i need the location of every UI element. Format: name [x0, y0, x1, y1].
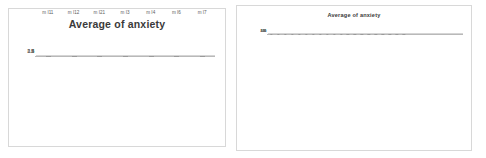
x-axis-label-cell: Category 27	[449, 0, 456, 18]
x-axis-label-cell: Category 14	[358, 0, 365, 18]
x-axis-label-cell: Category 22	[414, 0, 421, 18]
x-axis-tick-label: m I12	[61, 10, 87, 24]
x-axis-label-cell: Category 11	[337, 0, 344, 18]
x-axis-label-cell: Category 21	[407, 0, 414, 18]
x-axis-label-cell: Category 5	[295, 0, 302, 18]
right-plot-area: 0.000.501.001.502.002.503.003.504.00	[267, 34, 463, 35]
x-axis-label-cell: Category 13	[351, 0, 358, 18]
left-chart-panel: Average of anxiety 00.511.522.533.54 m I…	[8, 8, 226, 147]
x-axis-label-cell: Category 24	[428, 0, 435, 18]
x-axis-label-cell: Category 7	[309, 0, 316, 18]
left-plot-area: 00.511.522.533.54	[35, 56, 215, 57]
x-axis-tick-label: m I7	[189, 10, 215, 24]
x-axis-label-cell: Category 20	[400, 0, 407, 18]
x-axis-label-cell: Category 2	[274, 0, 281, 18]
x-axis-tick-label: m I3	[112, 10, 138, 24]
left-x-axis-labels: m I11m I12m I21m I3m I4m I6m I7	[35, 10, 215, 24]
x-axis-label-cell: Category 9	[323, 0, 330, 18]
x-axis-label-cell: Category 4	[288, 0, 295, 18]
x-axis-label-cell: Category 1	[267, 0, 274, 18]
y-axis-tick-label: 4.00	[261, 30, 268, 33]
x-axis-tick-label: m I21	[86, 10, 112, 24]
figure-container: Average of anxiety 00.511.522.533.54 m I…	[0, 0, 486, 158]
x-axis-label-cell: Category 17	[379, 0, 386, 18]
right-chart-panel: Average of anxiety 0.000.501.001.502.002…	[236, 5, 472, 151]
x-axis-label-cell: Category 8	[316, 0, 323, 18]
x-axis-label-cell: Category 28	[456, 0, 463, 18]
right-x-axis-labels: Category 1Category 2Category 3Category 4…	[267, 0, 463, 18]
x-axis-label-cell: Category 12	[344, 0, 351, 18]
x-axis-label-cell: Category 23	[421, 0, 428, 18]
gridline	[36, 55, 215, 56]
x-axis-label-cell: Category 25	[435, 0, 442, 18]
x-axis-label-cell: Category 18	[386, 0, 393, 18]
x-axis-label-cell: Category 3	[281, 0, 288, 18]
x-axis-label-cell: Category 15	[365, 0, 372, 18]
gridline	[268, 33, 463, 34]
x-axis-label-cell: Category 10	[330, 0, 337, 18]
x-axis-tick-label: m I11	[35, 10, 61, 24]
y-axis-tick-label: 4	[31, 49, 36, 54]
x-axis-label-cell: Category 19	[393, 0, 400, 18]
x-axis-label-cell: Category 6	[302, 0, 309, 18]
x-axis-label-cell: Category 26	[442, 0, 449, 18]
x-axis-tick-label: m I4	[138, 10, 164, 24]
x-axis-label-cell: Category 16	[372, 0, 379, 18]
x-axis-tick-label: m I6	[164, 10, 190, 24]
